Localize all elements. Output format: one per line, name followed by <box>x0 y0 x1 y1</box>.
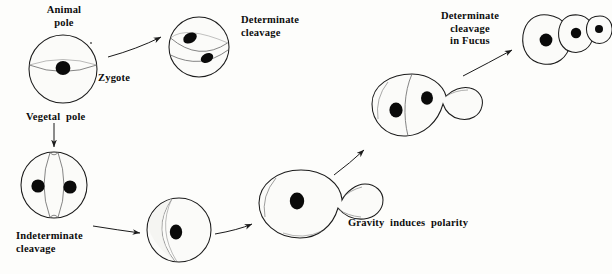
nucleus <box>63 180 76 193</box>
nucleus <box>595 25 603 33</box>
stage-determinate-two-cell <box>169 17 229 77</box>
label-vegetal-pole: Vegetal pole <box>26 111 106 124</box>
stage-two-cell-rhizoid <box>372 74 482 136</box>
arrow-twocell-to-filament <box>463 50 512 76</box>
arrow-zygote-to-determinate <box>108 37 161 57</box>
stage-polarized-egg <box>147 198 211 262</box>
label-zygote: Zygote <box>98 72 148 85</box>
label-indeterminate-cleavage: Indeterminate cleavage <box>16 230 112 255</box>
label-determinate-cleavage: Determinate cleavage <box>241 14 327 39</box>
nucleus <box>56 61 71 75</box>
arrow-polarized-to-rhizoid <box>215 224 252 234</box>
figure-canvas: Animal pole Zygote Vegetal pole Determin… <box>0 0 612 274</box>
nucleus <box>290 193 304 210</box>
nucleus <box>389 103 402 118</box>
nucleus <box>421 91 433 105</box>
label-gravity-induces-polarity: Gravity induces polarity <box>348 217 498 230</box>
arrow-rhizoid-to-twocell <box>334 150 364 175</box>
nucleus <box>571 28 581 38</box>
label-determinate-cleavage-in-fucus: Determinate cleavage in Fucus <box>429 10 511 48</box>
nucleus <box>31 179 44 192</box>
stage-fucus-filament <box>523 15 612 65</box>
stage-zygote-sphere <box>29 35 97 103</box>
label-animal-pole: Animal pole <box>36 4 92 29</box>
stage-indeterminate-two-cell <box>21 152 87 218</box>
nucleus <box>170 225 182 240</box>
nucleus <box>540 34 553 47</box>
